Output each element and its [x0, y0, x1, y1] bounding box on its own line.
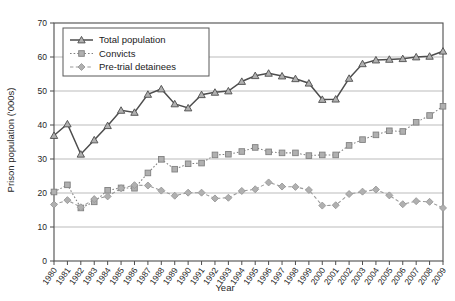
y-tick-label-40: 40 — [38, 120, 48, 130]
marker-2009 — [440, 204, 447, 211]
marker-1996 — [266, 149, 272, 155]
marker-1999 — [306, 153, 312, 159]
x-tick-label-2009: 2009 — [429, 265, 448, 286]
marker-1980 — [51, 189, 57, 195]
marker-2008 — [426, 198, 433, 205]
marker-1994 — [239, 149, 245, 155]
x-axis-ticks: 1980198119821983198419851986198719881989… — [40, 261, 448, 287]
marker-1987 — [145, 170, 151, 176]
y-axis-ticks: 010203040506070 — [38, 18, 54, 266]
marker-1990 — [185, 161, 191, 167]
legend-label-2: Pre-trial detainees — [99, 61, 176, 72]
marker-1987 — [144, 182, 151, 189]
marker-1995 — [252, 145, 258, 151]
marker-2005 — [387, 128, 393, 134]
marker-1984 — [105, 187, 111, 193]
marker-2009 — [440, 104, 446, 110]
chart-container: 010203040506070 198019811982198319841985… — [0, 0, 455, 301]
marker-1990 — [185, 189, 192, 196]
y-tick-label-20: 20 — [38, 188, 48, 198]
marker-2002 — [346, 191, 353, 198]
marker-2003 — [359, 188, 366, 195]
marker-2001 — [333, 152, 339, 158]
marker-1996 — [265, 70, 272, 77]
legend-label-0: Total population — [99, 34, 166, 45]
y-tick-label-50: 50 — [38, 86, 48, 96]
y-tick-label-30: 30 — [38, 154, 48, 164]
marker-2009 — [439, 48, 446, 55]
legend-label-1: Convicts — [99, 48, 136, 59]
marker-1991 — [198, 189, 205, 196]
series-pre-trial-detainees — [51, 179, 447, 212]
marker-2004 — [372, 186, 379, 193]
marker-1991 — [199, 160, 205, 166]
legend-marker-1 — [79, 51, 85, 57]
chart-legend: Total populationConvictsPre-trial detain… — [63, 28, 209, 76]
y-tick-label-10: 10 — [38, 222, 48, 232]
marker-1981 — [64, 120, 71, 127]
marker-1992 — [211, 195, 218, 202]
x-axis-title: Year — [215, 282, 234, 293]
marker-2008 — [427, 113, 433, 119]
y-tick-label-70: 70 — [38, 18, 48, 28]
marker-2006 — [400, 129, 406, 135]
marker-1980 — [51, 201, 58, 208]
y-tick-label-60: 60 — [38, 52, 48, 62]
marker-1981 — [64, 197, 71, 204]
marker-2006 — [399, 201, 406, 208]
marker-1993 — [225, 194, 232, 201]
marker-1998 — [292, 183, 299, 190]
marker-1997 — [279, 183, 286, 190]
marker-2003 — [360, 137, 366, 143]
marker-1996 — [265, 179, 272, 186]
marker-1993 — [226, 151, 232, 157]
y-tick-label-0: 0 — [42, 256, 47, 266]
y-axis-title: Prison population ('000s) — [5, 88, 16, 193]
marker-1992 — [212, 152, 218, 158]
marker-2007 — [413, 198, 420, 205]
marker-1989 — [172, 166, 178, 172]
marker-1984 — [104, 193, 111, 200]
gridlines — [54, 57, 443, 227]
marker-1997 — [279, 150, 285, 156]
prison-population-line-chart: 010203040506070 198019811982198319841985… — [0, 0, 455, 301]
marker-1988 — [158, 85, 165, 92]
series-line — [54, 182, 443, 208]
marker-1998 — [293, 150, 299, 156]
marker-1981 — [65, 182, 71, 188]
marker-2002 — [346, 143, 352, 149]
marker-2007 — [413, 119, 419, 125]
marker-1988 — [159, 157, 165, 163]
marker-2004 — [373, 132, 379, 138]
marker-1995 — [252, 186, 259, 193]
marker-2000 — [319, 152, 325, 158]
